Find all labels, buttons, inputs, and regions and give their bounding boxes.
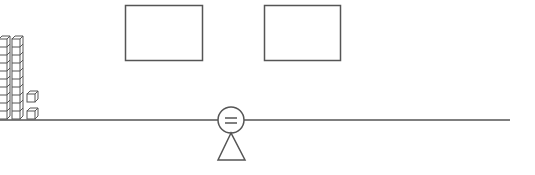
answer-box-2[interactable] [265, 6, 341, 61]
tens-rod-2 [12, 36, 23, 119]
tens-rod-1 [0, 36, 10, 119]
unit-cube-2 [27, 108, 38, 119]
equals-circle [218, 107, 244, 133]
answer-box-1[interactable] [126, 6, 203, 61]
balance-diagram [0, 0, 535, 175]
fulcrum-triangle [218, 133, 245, 160]
unit-cube-1 [27, 91, 38, 102]
